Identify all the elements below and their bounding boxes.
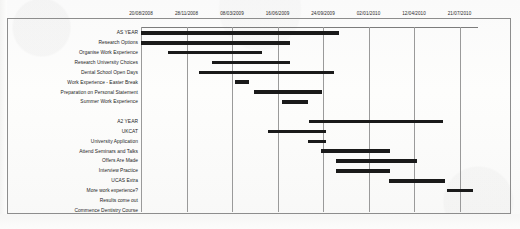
gantt-bar [336,159,417,163]
task-label: UCAS Extra [111,178,138,183]
gantt-bar [308,140,326,144]
x-axis-tick-label: 16/06/2009 [266,11,290,16]
task-label: Preparation on Personal Statement [61,90,138,95]
x-axis-tick-label: 21/07/2010 [448,11,472,16]
x-axis-tick-label: 02/01/2010 [357,11,381,16]
gantt-bar [336,169,390,173]
task-label: More work experience? [87,188,138,193]
gantt-bar [389,179,445,183]
gridline [460,27,461,212]
task-label-column: AS YEARResearch OptionsOrganise Work Exp… [10,27,138,212]
x-axis-tick-label: 24/09/2009 [311,11,335,16]
gantt-bar [168,51,262,55]
gantt-bar [141,31,339,35]
gantt-bar [282,100,308,104]
task-label: University Application [91,139,138,144]
gridline [141,27,142,212]
task-label: Research University Choices [74,60,138,65]
gantt-chart: 20/08/200828/11/200808/03/200916/06/2009… [0,0,520,229]
task-label: Organise Work Experience [79,50,138,55]
x-axis-tick-label: 08/03/2009 [220,11,244,16]
x-axis-tick-label: 28/11/2008 [175,11,198,16]
task-label: Results come out [100,198,138,203]
task-label: Attend Seminars and Talks [79,149,138,154]
gridline [232,27,233,212]
task-label: Offers Are Made [102,158,138,163]
x-axis-tick-label: 20/08/2008 [129,11,153,16]
task-label: Commence Dentistry Course [74,208,138,213]
gantt-bar [212,61,290,65]
gantt-bar [254,90,322,94]
x-axis-tick-label: 12/04/2010 [402,11,426,16]
task-label: AS YEAR [117,30,138,35]
task-label: Research Options [98,40,138,45]
task-label: Dental School Open Days [81,70,138,75]
gantt-bar [141,41,290,45]
gantt-bar [321,149,390,153]
gridline [187,27,188,212]
gantt-bar [199,71,334,75]
page-bottom-margin [0,214,520,229]
task-label: Summer Work Experience [80,99,138,104]
task-label: Work Experience - Easter Break [67,80,138,85]
gantt-bar [447,189,473,193]
gantt-bar [268,130,326,134]
task-label: Interview Practice [99,168,138,173]
gantt-bar [235,80,249,84]
task-label: UKCAT [122,129,138,134]
task-label: A2 YEAR [117,119,138,124]
plot-area [141,27,478,212]
gridline [278,27,279,212]
gantt-bar [309,120,443,124]
page-left-margin [0,0,7,229]
